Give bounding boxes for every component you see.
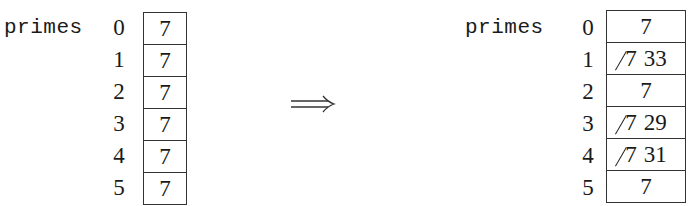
- cell-value: 7: [159, 112, 171, 137]
- array-cell: 7: [144, 77, 186, 109]
- index-label: 2: [578, 76, 598, 108]
- index-column-after: 0 1 2 3 4 5: [578, 12, 598, 204]
- array-cell: 7: [144, 141, 186, 173]
- index-label: 4: [578, 140, 598, 172]
- index-label: 0: [109, 12, 129, 44]
- array-cell: 7: [144, 173, 186, 205]
- array-cell: 7: [607, 75, 685, 107]
- array-cell: 7: [607, 11, 685, 43]
- cell-value: 7: [640, 174, 652, 199]
- cell-value: 29: [644, 110, 667, 135]
- struck-old-value: 7: [625, 139, 637, 170]
- index-label: 1: [109, 44, 129, 76]
- index-label: 5: [109, 172, 129, 204]
- struck-old-value: 7: [625, 43, 637, 74]
- array-cell: 7: [144, 13, 186, 45]
- array-cell-updated: 729: [607, 107, 685, 139]
- array-cell-updated: 731: [607, 139, 685, 171]
- array-cell-updated: 733: [607, 43, 685, 75]
- array-cell: 7: [607, 171, 685, 203]
- array-label-before: primes: [4, 12, 83, 44]
- index-label: 5: [578, 172, 598, 204]
- cell-value: 33: [644, 46, 667, 71]
- cell-value: 31: [644, 142, 667, 167]
- cell-value: 7: [159, 176, 171, 201]
- cell-value: 7: [640, 78, 652, 103]
- cell-value: 7: [640, 14, 652, 39]
- cell-value: 7: [159, 16, 171, 41]
- cell-value: 7: [159, 80, 171, 105]
- index-label: 4: [109, 140, 129, 172]
- array-cell: 7: [144, 45, 186, 77]
- index-label: 1: [578, 44, 598, 76]
- index-label: 3: [109, 108, 129, 140]
- array-label-after: primes: [465, 12, 544, 44]
- index-label: 2: [109, 76, 129, 108]
- array-cell: 7: [144, 109, 186, 141]
- array-box-before: 7 7 7 7 7 7: [143, 12, 187, 205]
- cell-value: 7: [159, 48, 171, 73]
- index-column-before: 0 1 2 3 4 5: [109, 12, 129, 204]
- array-box-after: 7 733 7 729 731 7: [606, 10, 686, 203]
- double-right-arrow-icon: [290, 94, 336, 114]
- index-label: 3: [578, 108, 598, 140]
- struck-old-value: 7: [625, 107, 637, 138]
- index-label: 0: [578, 12, 598, 44]
- cell-value: 7: [159, 144, 171, 169]
